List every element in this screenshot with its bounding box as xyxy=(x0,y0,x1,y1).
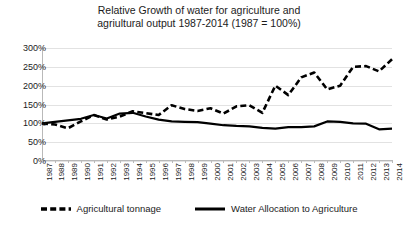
x-axis-tick xyxy=(185,160,186,163)
x-axis-tick xyxy=(94,160,95,163)
legend-item[interactable]: Agricultural tonnage xyxy=(41,203,162,214)
x-axis-tick-label: 2000 xyxy=(214,163,222,181)
x-axis-tick-label: 2009 xyxy=(331,163,339,181)
x-axis-tick-labels: 1987198819891990199119921993199419951996… xyxy=(42,163,392,197)
x-axis-tick-label: 1990 xyxy=(84,163,92,181)
x-axis-tick xyxy=(146,160,147,163)
y-axis-tick-label: 300% xyxy=(6,44,46,53)
x-axis-tick xyxy=(314,160,315,163)
x-axis-tick xyxy=(133,160,134,163)
y-axis-tick-label: 150% xyxy=(6,101,46,110)
x-axis-tick-label: 1988 xyxy=(58,163,66,181)
series-line-water-allocation-to-agriculture xyxy=(42,113,392,130)
x-axis-tick xyxy=(211,160,212,163)
x-axis-tick xyxy=(379,160,380,163)
legend-label: Agricultural tonnage xyxy=(77,203,162,214)
x-axis-tick xyxy=(68,160,69,163)
x-axis-tick-label: 1998 xyxy=(188,163,196,181)
x-axis-tick xyxy=(340,160,341,163)
x-axis-tick-label: 2005 xyxy=(279,163,287,181)
x-axis-tick xyxy=(392,160,393,163)
x-axis-tick xyxy=(172,160,173,163)
chart-title: Relative Growth of water for agriculture… xyxy=(0,4,398,30)
x-axis-tick-label: 2008 xyxy=(318,163,326,181)
x-axis-tick xyxy=(198,160,199,163)
x-axis-tick-label: 1994 xyxy=(136,163,144,181)
x-axis-tick xyxy=(288,160,289,163)
x-axis-tick-label: 2014 xyxy=(396,163,404,181)
x-axis-tick xyxy=(223,160,224,163)
x-axis-tick-label: 2002 xyxy=(240,163,248,181)
x-axis-tick-label: 2010 xyxy=(344,163,352,181)
y-axis-tick-label: 200% xyxy=(6,82,46,91)
x-axis-tick xyxy=(120,160,121,163)
x-axis-tick-label: 2001 xyxy=(227,163,235,181)
x-axis-tick-label: 1999 xyxy=(201,163,209,181)
plot-area xyxy=(42,48,392,161)
y-axis-tick-label: 50% xyxy=(6,138,46,147)
x-axis-tick xyxy=(327,160,328,163)
legend-label: Water Allocation to Agriculture xyxy=(231,203,357,214)
series-lines xyxy=(42,48,392,161)
x-axis-tick-label: 1987 xyxy=(46,163,54,181)
x-axis-tick-label: 1992 xyxy=(110,163,118,181)
x-axis-tick-label: 1997 xyxy=(175,163,183,181)
x-axis-tick xyxy=(262,160,263,163)
y-axis-tick-label: 0% xyxy=(6,157,46,166)
legend-item[interactable]: Water Allocation to Agriculture xyxy=(195,203,357,214)
x-axis-tick-label: 2012 xyxy=(370,163,378,181)
x-axis-tick xyxy=(81,160,82,163)
chart-legend: Agricultural tonnageWater Allocation to … xyxy=(0,203,398,214)
x-axis-tick-label: 1989 xyxy=(71,163,79,181)
legend-swatch-solid xyxy=(195,204,225,214)
y-axis-tick-label: 100% xyxy=(6,119,46,128)
x-axis-tick xyxy=(301,160,302,163)
x-axis-tick-label: 1991 xyxy=(97,163,105,181)
x-axis-tick-label: 2006 xyxy=(292,163,300,181)
x-axis-tick xyxy=(107,160,108,163)
x-axis-tick xyxy=(42,160,43,163)
y-axis-tick-label: 250% xyxy=(6,63,46,72)
x-axis-tick-label: 1995 xyxy=(149,163,157,181)
chart-title-line-2: agriultural output 1987-2014 (1987 = 100… xyxy=(0,17,398,30)
x-axis-tick-label: 1993 xyxy=(123,163,131,181)
legend-swatch-dashed xyxy=(41,204,71,214)
x-axis-tick xyxy=(353,160,354,163)
x-axis-tick-label: 2011 xyxy=(357,163,365,180)
x-axis-tick-label: 2004 xyxy=(266,163,274,181)
series-line-agricultural-tonnage xyxy=(42,59,392,128)
x-axis-tick xyxy=(236,160,237,163)
x-axis-tick xyxy=(366,160,367,163)
x-axis-tick-label: 2003 xyxy=(253,163,261,181)
x-axis-tick xyxy=(159,160,160,163)
x-axis-tick-label: 2007 xyxy=(305,163,313,181)
x-axis-tick-label: 2013 xyxy=(383,163,391,181)
chart-title-line-1: Relative Growth of water for agriculture… xyxy=(98,4,301,16)
x-axis-tick xyxy=(275,160,276,163)
x-axis-tick xyxy=(249,160,250,163)
x-axis-tick-label: 1996 xyxy=(162,163,170,181)
x-axis-tick xyxy=(55,160,56,163)
